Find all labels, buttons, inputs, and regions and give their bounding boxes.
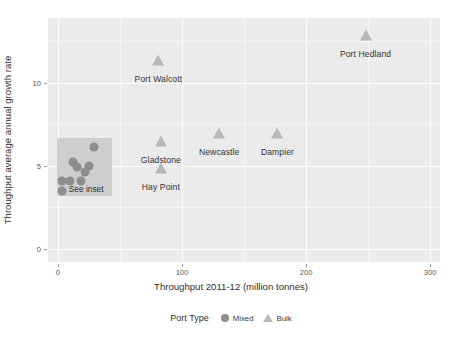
triangle-icon: [263, 314, 273, 322]
x-axis-tick-label: 0: [56, 268, 60, 277]
y-axis-tick-label: 0: [37, 244, 41, 253]
scatter-chart: See inset Port HedlandPort WalcottGladst…: [0, 0, 462, 345]
data-point-mixed[interactable]: [57, 176, 66, 185]
data-point-bulk[interactable]: [213, 128, 225, 139]
gridline-x-major: [430, 18, 431, 262]
gridline-x-minor: [244, 18, 245, 262]
data-point-bulk[interactable]: [155, 136, 167, 147]
y-axis-tick-label: 10: [33, 78, 41, 87]
x-axis-tick: [182, 264, 183, 267]
y-axis-tick: [44, 166, 47, 167]
y-axis-tick: [44, 249, 47, 250]
data-point-bulk[interactable]: [360, 30, 372, 41]
legend-title: Port Type: [170, 313, 208, 323]
legend-item-mixed[interactable]: Mixed: [221, 314, 254, 323]
x-axis-tick: [430, 264, 431, 267]
y-axis-tick: [44, 83, 47, 84]
data-point-label: Gladstone: [141, 155, 181, 165]
x-axis-title: Throughput 2011-12 (million tonnes): [0, 281, 462, 292]
y-axis-tick-label: 5: [37, 161, 41, 170]
gridline-y-major: [48, 83, 440, 84]
gridline-y-minor: [48, 207, 440, 208]
data-point-mixed[interactable]: [89, 143, 98, 152]
data-point-label: Hay Point: [142, 182, 180, 192]
data-point-mixed[interactable]: [57, 186, 66, 195]
inset-region-label: See inset: [69, 184, 104, 194]
gridline-x-major: [182, 18, 183, 262]
data-point-label: Port Walcott: [135, 74, 183, 84]
gridline-y-major: [48, 249, 440, 250]
legend-item-bulk[interactable]: Bulk: [263, 314, 292, 323]
data-point-bulk[interactable]: [152, 55, 164, 66]
gridline-y-minor: [48, 124, 440, 125]
legend-label-bulk: Bulk: [277, 314, 292, 323]
data-point-bulk[interactable]: [271, 128, 283, 139]
x-axis-tick-label: 300: [424, 268, 437, 277]
circle-icon: [221, 314, 229, 322]
legend: Port Type Mixed Bulk: [0, 313, 462, 323]
gridline-x-minor: [120, 18, 121, 262]
legend-label-mixed: Mixed: [233, 314, 254, 323]
data-point-label: Newcastle: [199, 147, 240, 157]
data-point-label: Dampier: [261, 147, 294, 157]
data-point-mixed[interactable]: [77, 176, 86, 185]
x-axis-tick: [306, 264, 307, 267]
plot-panel: See inset Port HedlandPort WalcottGladst…: [48, 18, 440, 262]
data-point-label: Port Hedland: [340, 49, 391, 59]
y-axis-title: Throughput average annual growth rate: [2, 18, 18, 262]
gridline-y-minor: [48, 41, 440, 42]
data-point-mixed[interactable]: [66, 176, 75, 185]
x-axis-tick-label: 200: [300, 268, 313, 277]
gridline-x-major: [306, 18, 307, 262]
data-point-mixed[interactable]: [72, 163, 81, 172]
x-axis-tick: [58, 264, 59, 267]
x-axis-tick-label: 100: [176, 268, 189, 277]
